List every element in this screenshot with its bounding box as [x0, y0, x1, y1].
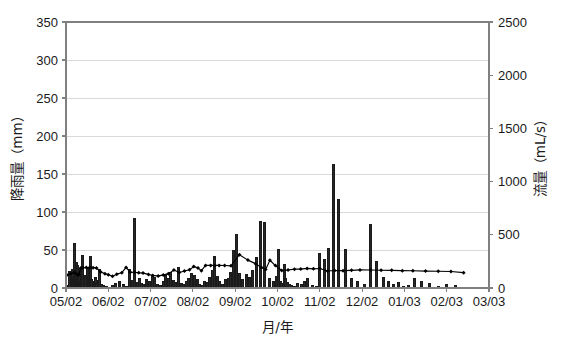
bar-rainfall	[209, 277, 211, 288]
bar-rainfall	[204, 281, 206, 288]
bar-rainfall	[188, 278, 190, 288]
bar-rainfall	[357, 281, 359, 288]
bar-rainfall	[264, 223, 266, 288]
bar-rainfall	[338, 199, 340, 288]
bar-rainfall	[219, 282, 221, 288]
bar-rainfall	[297, 283, 299, 288]
y-tick-label-left: 100	[36, 205, 58, 220]
bar-rainfall	[216, 277, 218, 288]
bar-rainfall	[180, 283, 182, 288]
x-tick-label: 06/02	[92, 294, 125, 309]
x-tick-label: 09/02	[219, 294, 252, 309]
bar-rainfall	[140, 283, 142, 288]
x-tick-label: 05/02	[50, 294, 83, 309]
bar-rainfall	[170, 273, 172, 288]
bar-rainfall	[196, 280, 198, 288]
y-tick-label-left: 150	[36, 167, 58, 182]
y-tick-label-left: 250	[36, 91, 58, 106]
bar-rainfall	[214, 257, 216, 288]
y-axis-right-title: 流量（mL/s）	[532, 113, 548, 197]
bar-rainfall	[323, 259, 325, 288]
bar-rainfall	[260, 221, 262, 288]
bar-rainfall	[191, 274, 193, 288]
y-tick-label-left: 350	[36, 15, 58, 30]
y-axis-left-title: 降雨量（mm）	[9, 109, 25, 200]
bar-rainfall	[175, 283, 177, 288]
bar-rainfall	[115, 283, 117, 288]
bar-rainfall	[154, 277, 156, 288]
bar-rainfall	[382, 277, 384, 288]
bar-rainfall	[172, 280, 174, 288]
x-tick-label: 03/03	[473, 294, 506, 309]
bar-rainfall	[245, 274, 247, 288]
x-axis-title: 月/年	[262, 319, 293, 335]
bar-rainfall	[233, 250, 235, 288]
bar-rainfall	[351, 279, 353, 288]
x-tick-label: 01/03	[388, 294, 421, 309]
bar-rainfall	[414, 279, 416, 288]
bar-rainfall	[327, 248, 329, 288]
bar-rainfall	[167, 279, 169, 288]
bar-rainfall	[249, 277, 251, 288]
x-tick-label: 02/03	[430, 294, 463, 309]
bar-rainfall	[397, 283, 399, 288]
bar-rainfall	[118, 282, 120, 288]
bar-rainfall	[344, 249, 346, 288]
x-tick-label: 10/02	[261, 294, 294, 309]
bar-rainfall	[185, 282, 187, 288]
y-tick-label-left: 300	[36, 53, 58, 68]
bar-rainfall	[238, 274, 240, 288]
bar-rainfall	[304, 281, 306, 288]
bar-rainfall	[211, 271, 213, 288]
y-tick-label-right: 2000	[498, 68, 527, 83]
x-tick-label: 11/02	[304, 294, 336, 309]
x-tick-label: 07/02	[134, 294, 167, 309]
x-tick-label: 12/02	[346, 294, 379, 309]
y-tick-label-right: 1000	[498, 174, 527, 189]
bar-rainfall	[157, 284, 159, 288]
bar-rainfall	[420, 281, 422, 288]
bar-rainfall	[230, 272, 232, 288]
bar-rainfall	[376, 261, 378, 288]
rainfall-flow-chart: 050100150200250300350 050010001500200025…	[0, 0, 563, 355]
y-tick-label-right: 500	[498, 227, 520, 242]
bar-rainfall	[193, 275, 195, 288]
bar-rainfall	[288, 284, 290, 288]
bar-rainfall	[227, 278, 229, 288]
bar-rainfall	[165, 275, 167, 288]
bar-rainfall	[242, 280, 244, 288]
bar-rainfall	[370, 225, 372, 288]
y-tick-label-right: 2500	[498, 15, 527, 30]
bar-rainfall	[145, 280, 147, 288]
bar-rainfall	[162, 281, 164, 288]
bar-rainfall	[268, 278, 270, 288]
y-tick-label-right: 1500	[498, 121, 527, 136]
bar-rainfall	[199, 284, 201, 288]
bar-rainfall	[252, 271, 254, 288]
chart-canvas: 050100150200250300350 050010001500200025…	[0, 0, 563, 355]
bar-rainfall	[224, 280, 226, 288]
bar-rainfall	[272, 282, 274, 288]
bar-rainfall	[307, 279, 309, 288]
x-tick-label: 08/02	[177, 294, 210, 309]
bar-rainfall	[206, 283, 208, 288]
bar-rainfall	[429, 283, 431, 288]
bar-rainfall	[236, 235, 238, 288]
y-tick-label-left: 200	[36, 129, 58, 144]
y-tick-label-left: 50	[44, 243, 58, 258]
bar-rainfall	[363, 284, 365, 288]
bar-rainfall	[148, 281, 150, 288]
bar-rainfall	[178, 267, 180, 288]
bar-rainfall	[134, 218, 136, 288]
bar-rainfall	[222, 284, 224, 288]
bar-rainfall	[387, 282, 389, 288]
bar-rainfall	[151, 276, 153, 288]
bar-rainfall	[275, 277, 277, 288]
